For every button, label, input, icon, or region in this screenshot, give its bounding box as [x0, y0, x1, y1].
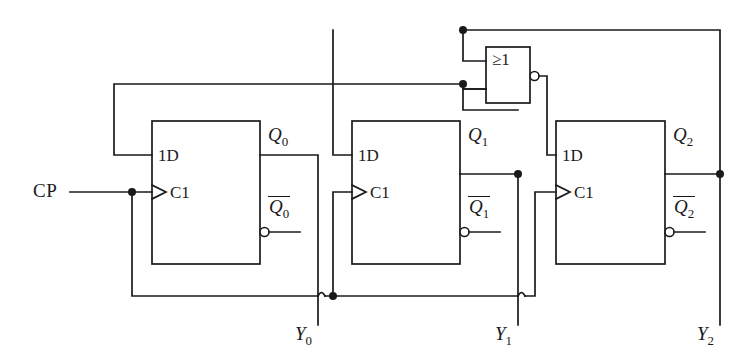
output-y2-subscript: 2 [708, 333, 714, 348]
junction-dot-clock-split [128, 188, 136, 196]
circuit-wiring-canvas [0, 0, 749, 357]
flipflop-1-q-label: Q1 [468, 124, 488, 150]
flipflop-2-qbar-label: Q2 [673, 196, 695, 220]
output-y1-label: Y1 [495, 323, 512, 349]
flipflop-1-body [352, 121, 460, 264]
flipflop-1-data-pin-label: 1D [358, 146, 379, 166]
output-y0-subscript: 0 [306, 333, 312, 348]
flipflop-2-data-pin-label: 1D [562, 146, 583, 166]
junction-dot-clock-flipflop-1 [329, 292, 337, 300]
flipflop-0-body [152, 121, 260, 264]
flipflop-2-q-letter: Q [673, 124, 687, 145]
flipflop-2-q-subscript: 2 [687, 134, 693, 149]
flipflop-1-qbar-letter: Q [469, 196, 483, 217]
flipflop-2-body [556, 121, 665, 264]
q0-output-to-y0-bus [260, 155, 318, 325]
flipflop-0-qbar-subscript: 0 [283, 206, 289, 221]
flipflop-0-q-subscript: 0 [282, 134, 288, 149]
nor-input-a-wire [463, 30, 486, 61]
nor-output-to-flipflop-2 [539, 76, 556, 155]
flipflop-0-qbar-letter: Q [269, 196, 283, 217]
flipflop-0-clock-pin-label: C1 [170, 183, 190, 203]
flipflop-0-data-pin-label: 1D [158, 146, 179, 166]
flipflop-2-qbar-bubble [665, 228, 674, 237]
flipflop-1-clock-pin-label: C1 [370, 183, 390, 203]
output-y1-subscript: 1 [506, 333, 512, 348]
flipflop-1-q-subscript: 1 [482, 134, 488, 149]
flipflop-2-q-label: Q2 [673, 124, 693, 150]
nor-gate-output-bubble [530, 72, 539, 81]
junction-dot-nor-input-a [459, 26, 467, 34]
flipflop-1-q-letter: Q [468, 124, 482, 145]
junction-dot-q2-bus [716, 170, 724, 178]
clock-feed-flipflop-1 [333, 192, 352, 296]
output-y0-label: Y0 [295, 323, 312, 349]
flipflop-2-clock-pin-label: C1 [574, 183, 594, 203]
feedback-rail-to-flipflop-0 [114, 84, 463, 155]
flipflop-1-qbar-subscript: 1 [483, 206, 489, 221]
clock-bus-hop-over-y1 [518, 293, 525, 297]
junction-dot-q1-bus [514, 170, 522, 178]
output-y1-letter: Y [495, 323, 506, 344]
flipflop-1-qbar-bubble [460, 228, 469, 237]
clock-bus-to-flipflop-2 [525, 192, 556, 296]
flipflop-0-q-label: Q0 [268, 124, 288, 150]
clock-input-label: CP [33, 180, 57, 202]
nor-gate-symbol: ≥1 [492, 50, 510, 70]
flipflop-2-qbar-letter: Q [674, 196, 688, 217]
feedback-rail-to-flipflop-1 [333, 30, 352, 155]
flipflop-0-q-letter: Q [268, 124, 282, 145]
flipflop-2-clock-triangle [556, 185, 570, 199]
flipflop-0-clock-triangle [152, 185, 166, 199]
flipflop-0-qbar-label: Q0 [268, 196, 290, 220]
flipflop-1-qbar-label: Q1 [468, 196, 490, 220]
flipflop-0-qbar-bubble [260, 228, 269, 237]
flipflop-1-clock-triangle [352, 185, 366, 199]
output-y2-label: Y2 [697, 323, 714, 349]
flipflop-2-qbar-subscript: 2 [688, 206, 694, 221]
q1-feedback-riser [463, 84, 518, 110]
output-y2-letter: Y [697, 323, 708, 344]
output-y0-letter: Y [295, 323, 306, 344]
circuit-diagram: CP ≥1 1D C1 1D C1 1D C1 Q0 Q0 Q1 Q1 Q2 Q… [0, 0, 749, 357]
clock-bus-hop-over-y0 [318, 293, 325, 297]
junction-dot-nor-input-b [459, 80, 467, 88]
